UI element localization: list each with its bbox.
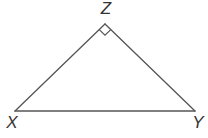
edge-zy xyxy=(105,24,195,111)
vertex-label-z: Z xyxy=(100,0,112,18)
edge-xz xyxy=(15,24,105,111)
right-angle-marker xyxy=(99,30,111,36)
vertex-label-y: Y xyxy=(192,113,205,132)
right-triangle-diagram: Z X Y xyxy=(0,0,208,138)
vertex-label-x: X xyxy=(5,113,18,132)
